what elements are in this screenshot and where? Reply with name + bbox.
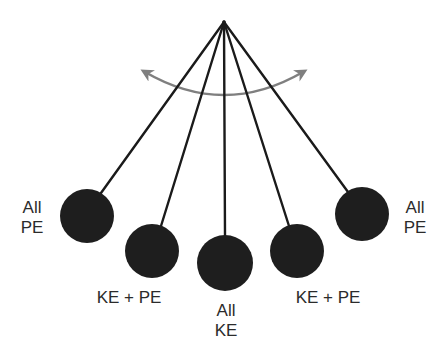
label-right-middle: KE + PE <box>283 288 373 308</box>
label-right-middle-text: KE + PE <box>283 288 373 308</box>
label-right-extreme-line1: All <box>397 198 433 218</box>
bob-left-middle <box>125 224 179 278</box>
label-left-extreme-line2: PE <box>14 218 50 238</box>
string-left-extreme <box>101 22 224 193</box>
string-right-middle <box>224 22 289 226</box>
string-right-extreme <box>224 22 348 192</box>
bob-right-extreme <box>335 187 389 241</box>
string-bottom <box>224 22 225 236</box>
label-left-extreme: All PE <box>14 198 50 238</box>
bob-bottom <box>197 235 253 291</box>
label-bottom: All KE <box>208 301 244 341</box>
label-right-extreme: All PE <box>397 198 433 238</box>
pivot-point <box>222 20 226 24</box>
label-left-extreme-line1: All <box>14 198 50 218</box>
pendulum-diagram: All PE KE + PE All KE KE + PE All PE <box>0 0 446 362</box>
label-bottom-line2: KE <box>208 321 244 341</box>
label-left-middle-text: KE + PE <box>84 288 174 308</box>
label-bottom-line1: All <box>208 301 244 321</box>
bob-right-middle <box>270 224 324 278</box>
string-left-middle <box>161 22 224 226</box>
label-right-extreme-line2: PE <box>397 218 433 238</box>
pendulum-strings <box>101 22 348 236</box>
label-left-middle: KE + PE <box>84 288 174 308</box>
bob-left-extreme <box>60 189 114 243</box>
